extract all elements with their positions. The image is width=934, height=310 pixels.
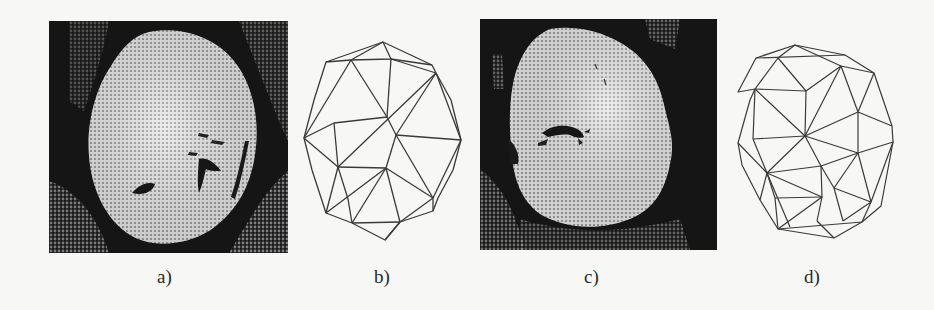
panel-d-label: d) [804,267,820,286]
triangulation-mesh-d [0,0,934,310]
panel-d-mesh [0,0,934,310]
